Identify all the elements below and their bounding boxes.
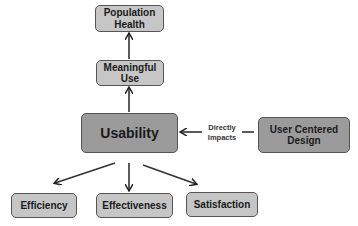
edge-label-directly-impacts: Directly Impacts <box>203 123 241 143</box>
node-label: Population Health <box>96 7 163 30</box>
node-label: Effectiveness <box>102 200 166 212</box>
node-usability: Usability <box>81 113 178 153</box>
node-meaningful-use: Meaningful Use <box>96 60 164 86</box>
node-label: Meaningful Use <box>97 62 163 85</box>
edge-label-line: Directly <box>203 123 241 133</box>
node-label: Usability <box>100 125 158 141</box>
edge-label-line: Impacts <box>203 133 241 143</box>
node-label: Efficiency <box>20 200 67 212</box>
arrow-usability-to-satisfaction <box>143 165 196 184</box>
node-efficiency: Efficiency <box>11 193 77 218</box>
arrow-usability-to-efficiency <box>55 163 115 183</box>
node-user-centered-design: User Centered Design <box>258 117 350 153</box>
node-population-health: Population Health <box>95 5 164 32</box>
node-effectiveness: Effectiveness <box>96 193 173 218</box>
node-label: Satisfaction <box>194 199 251 211</box>
node-satisfaction: Satisfaction <box>186 192 258 217</box>
node-label: User Centered Design <box>259 124 349 147</box>
